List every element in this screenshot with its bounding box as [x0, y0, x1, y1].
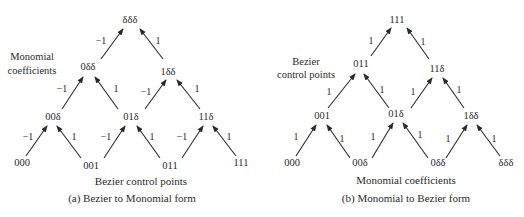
edge-weight: 1 [411, 86, 416, 97]
node-top: δδδ [123, 14, 138, 25]
side-label-line2: control points [277, 69, 335, 80]
side-label-line1: Monomial [10, 51, 54, 62]
edge-weight: 1 [114, 83, 119, 94]
edge-weight: −1 [23, 131, 34, 142]
arrow-edge [57, 126, 81, 158]
node-mid-right: 11δ [429, 63, 444, 74]
edge-weight: 1 [227, 131, 232, 142]
diagram-monomial-to-bezier: 111 011 11δ 001 01δ 1δδ 000 00δ 0δδ δδδ … [277, 14, 513, 205]
caption: (b) Monomial to Bezier form [342, 192, 471, 205]
side-label-line2: coefficients [8, 65, 57, 76]
node-base-2: 011 [162, 160, 177, 171]
edge-weight: 1 [371, 131, 376, 142]
node-mid-right: 1δδ [160, 66, 175, 77]
node-base-3: 111 [234, 157, 249, 168]
caption: (a) Bezier to Monomial form [68, 192, 196, 205]
arrow-edge [137, 126, 160, 158]
node-low-right: 11δ [198, 111, 213, 122]
side-label-line1: Bezier [292, 56, 320, 67]
node-low-left: 001 [314, 110, 330, 121]
edge-weight: 1 [294, 131, 299, 142]
edge-weight: −1 [177, 131, 188, 142]
edge-weight: 1 [340, 133, 345, 144]
edge-weight: 1 [327, 86, 332, 97]
node-base-3: δδδ [499, 157, 514, 168]
node-low-mid: 01δ [123, 111, 139, 122]
node-base-0: 000 [14, 157, 30, 168]
node-base-1: 001 [83, 160, 99, 171]
edge-weight: 1 [492, 133, 497, 144]
arrow-edge [403, 123, 428, 158]
edge-weight: 1 [380, 84, 385, 95]
edge-weight: 1 [156, 35, 161, 46]
edge-weight: 1 [150, 131, 155, 142]
node-base-2: 0δδ [430, 157, 445, 168]
edge-weight: 1 [195, 83, 200, 94]
node-low-left: 00δ [45, 111, 61, 122]
node-base-1: 00δ [352, 157, 368, 168]
edge-weight: 1 [418, 129, 423, 140]
edge-weight: 1 [421, 36, 426, 47]
arrow-edge [213, 126, 236, 156]
figure: δδδ 0δδ 1δδ 00δ 01δ 11δ 000 001 011 111 … [0, 0, 524, 217]
edge-weight: −1 [96, 35, 107, 46]
bottom-label: Monomial coefficients [356, 174, 456, 186]
node-low-right: 1δδ [463, 110, 478, 121]
arrow-edge [407, 28, 429, 59]
edge-weight: −1 [57, 83, 68, 94]
node-top: 111 [390, 14, 405, 25]
node-mid-left: 011 [353, 58, 368, 69]
arrow-edge [477, 125, 500, 156]
edge-weight: −1 [141, 86, 152, 97]
edge-weight: −1 [101, 131, 112, 142]
node-base-0: 000 [284, 157, 300, 168]
node-low-mid: 01δ [388, 108, 404, 119]
arrow-edge [364, 74, 389, 108]
diagram-bezier-to-monomial: δδδ 0δδ 1δδ 00δ 01δ 11δ 000 001 011 111 … [8, 14, 249, 205]
edge-weight: 1 [72, 131, 77, 142]
arrow-edge [296, 125, 316, 156]
edge-weight: 1 [446, 133, 451, 144]
arrow-edge [327, 125, 350, 158]
bottom-label: Bezier control points [95, 175, 187, 187]
arrow-edge [371, 28, 391, 56]
edge-weight: 1 [369, 35, 374, 46]
edge-weight: 1 [457, 84, 462, 95]
node-mid-left: 0δδ [80, 61, 95, 72]
